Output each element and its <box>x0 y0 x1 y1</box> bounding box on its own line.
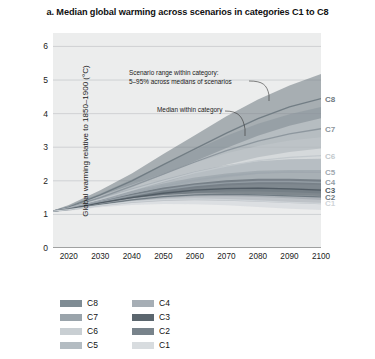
warming-bands-chart <box>53 33 321 248</box>
legend-label-c1: C1 <box>159 340 170 350</box>
legend-item-c7[interactable]: C7 <box>60 310 98 324</box>
legend-swatch-c3 <box>132 314 154 321</box>
legend-swatch-c6 <box>60 328 82 335</box>
category-label-c5: C5 <box>325 168 335 177</box>
category-label-c6: C6 <box>325 151 335 160</box>
y-axis-tick-label: 0 <box>18 243 48 253</box>
y-axis-tick-label: 6 <box>18 41 48 51</box>
category-label-c8: C8 <box>325 94 335 103</box>
annotation-median: Median within category <box>157 106 222 115</box>
legend-swatch-c2 <box>132 328 154 335</box>
legend-item-c4[interactable]: C4 <box>132 296 170 310</box>
legend-item-c6[interactable]: C6 <box>60 324 98 338</box>
annotation-range-line2: 5–95% across medians of scenarios <box>129 78 232 87</box>
y-axis-tick-label: 5 <box>18 75 48 85</box>
legend-column-left: C8C7C6C5 <box>60 296 98 352</box>
y-axis-tick-label: 4 <box>18 109 48 119</box>
legend-label-c3: C3 <box>159 312 170 322</box>
annotation-range-line1: Scenario range within category: <box>129 69 232 78</box>
legend-item-c8[interactable]: C8 <box>60 296 98 310</box>
plot-area: Global warming relative to 1850–1900 (°C… <box>53 33 321 248</box>
legend-label-c5: C5 <box>87 340 98 350</box>
legend-item-c1[interactable]: C1 <box>132 338 170 352</box>
y-axis-tick-label: 2 <box>18 176 48 186</box>
legend-label-c7: C7 <box>87 312 98 322</box>
category-label-c7: C7 <box>325 124 335 133</box>
y-axis-label: Global warming relative to 1850–1900 (°C… <box>81 65 90 216</box>
y-axis-tick-label: 1 <box>18 209 48 219</box>
annotation-scenario-range: Scenario range within category:5–95% acr… <box>129 69 232 86</box>
figure-root: a. Median global warming across scenario… <box>0 0 375 359</box>
legend-label-c4: C4 <box>159 298 170 308</box>
category-label-c1: C1 <box>325 199 335 208</box>
legend-swatch-c5 <box>60 342 82 349</box>
legend-item-c3[interactable]: C3 <box>132 310 170 324</box>
legend-column-right: C4C3C2C1 <box>132 296 170 352</box>
legend-item-c5[interactable]: C5 <box>60 338 98 352</box>
legend-swatch-c8 <box>60 300 82 307</box>
legend-swatch-c4 <box>132 300 154 307</box>
x-axis-tick-label: 2100 <box>301 252 341 261</box>
legend-label-c6: C6 <box>87 326 98 336</box>
y-axis-tick-label: 3 <box>18 142 48 152</box>
legend-item-c2[interactable]: C2 <box>132 324 170 338</box>
legend-swatch-c1 <box>132 342 154 349</box>
legend-label-c2: C2 <box>159 326 170 336</box>
figure-title: a. Median global warming across scenario… <box>0 7 375 17</box>
legend-label-c8: C8 <box>87 298 98 308</box>
legend-swatch-c7 <box>60 314 82 321</box>
